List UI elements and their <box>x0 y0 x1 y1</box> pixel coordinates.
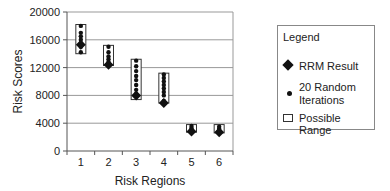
iteration-dot <box>134 58 138 62</box>
iteration-dot <box>134 83 138 87</box>
y-tick-label: 8000 <box>36 89 60 101</box>
x-tick-label: 3 <box>133 156 139 168</box>
iteration-dot <box>106 54 110 58</box>
y-axis-title: Risk Scores <box>11 49 25 113</box>
legend-item-rrm: RRM Result <box>282 60 358 72</box>
legend-title: Legend <box>283 31 320 43</box>
x-tick-label: 5 <box>188 156 194 168</box>
iteration-dot <box>79 31 83 35</box>
iteration-dot <box>162 72 166 76</box>
iteration-dot <box>134 64 138 68</box>
x-tick-label: 1 <box>78 156 84 168</box>
dot-marker-icon <box>282 87 296 99</box>
diamond-marker-icon <box>282 60 296 72</box>
iteration-dot <box>134 74 138 78</box>
iteration-dot <box>79 24 83 28</box>
x-tick-label: 2 <box>105 156 111 168</box>
iteration-dot <box>106 45 110 49</box>
legend-item-range: Possible Range <box>282 112 374 136</box>
iteration-dot <box>134 69 138 73</box>
iteration-dot <box>106 50 110 54</box>
iteration-dot <box>134 78 138 82</box>
y-tick-label: 12000 <box>29 62 60 74</box>
iteration-dot <box>79 50 83 54</box>
y-tick-label: 20000 <box>29 6 60 18</box>
y-tick-label: 4000 <box>36 117 60 129</box>
legend-label: 20 Random Iterations <box>299 81 362 107</box>
x-tick-label: 6 <box>216 156 222 168</box>
x-tick-label: 4 <box>161 156 167 168</box>
legend-label: RRM Result <box>299 60 358 72</box>
legend-label: Possible Range <box>299 112 374 136</box>
rect-marker-icon <box>282 112 296 124</box>
x-axis-title: Risk Regions <box>115 174 186 188</box>
chart-legend: Legend RRM Result 20 Random Iterations P… <box>277 25 375 130</box>
y-tick-label: 16000 <box>29 34 60 46</box>
y-tick-label: 0 <box>54 145 60 157</box>
legend-item-iterations: 20 Random Iterations <box>282 81 362 107</box>
